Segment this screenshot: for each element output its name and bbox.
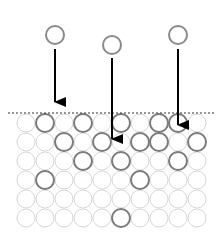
diagram-svg [0, 0, 217, 235]
grid-particle [131, 152, 149, 170]
diagram-canvas [0, 0, 217, 235]
highlighted-particle [112, 152, 130, 170]
grid-particle [112, 133, 130, 151]
highlighted-particle [74, 152, 92, 170]
grid-particle [150, 152, 168, 170]
grid-particle [169, 190, 187, 208]
highlighted-particle [169, 152, 187, 170]
grid-particle [150, 190, 168, 208]
grid-particle [93, 114, 111, 132]
grid-particle [36, 209, 54, 227]
grid-particle [74, 209, 92, 227]
highlighted-particle [55, 133, 73, 151]
grid-particle [17, 190, 35, 208]
incoming-particle [103, 36, 121, 54]
grid-particle [55, 152, 73, 170]
grid-particle [17, 209, 35, 227]
grid-particle [188, 152, 206, 170]
grid-particle [169, 133, 187, 151]
grid-particle [188, 190, 206, 208]
highlighted-particle [150, 133, 168, 151]
highlighted-particle [188, 133, 206, 151]
highlighted-particle [36, 171, 54, 189]
grid-particle [74, 133, 92, 151]
incoming-particle [46, 26, 64, 44]
grid-particle [112, 190, 130, 208]
grid-particle [150, 209, 168, 227]
grid-particle [169, 209, 187, 227]
grid-particle [17, 152, 35, 170]
grid-particle [74, 190, 92, 208]
grid-particle [188, 209, 206, 227]
highlighted-particle [93, 133, 111, 151]
grid-particle [150, 171, 168, 189]
grid-particle [93, 209, 111, 227]
highlighted-particle [131, 171, 149, 189]
falling-particles [46, 26, 187, 139]
grid-particle [112, 171, 130, 189]
highlighted-particle [74, 114, 92, 132]
grid-particle [55, 171, 73, 189]
grid-particle [55, 114, 73, 132]
grid-particle [55, 209, 73, 227]
grid-particle [188, 171, 206, 189]
grid-particle [55, 190, 73, 208]
highlighted-particle [36, 114, 54, 132]
grid-particle [17, 171, 35, 189]
grid-particle [93, 190, 111, 208]
grid-particle [17, 133, 35, 151]
grid-particle [36, 190, 54, 208]
incoming-particle [169, 26, 187, 44]
grid-particle [17, 114, 35, 132]
grid-particle [36, 133, 54, 151]
grid-particle [36, 152, 54, 170]
grid-particle [93, 171, 111, 189]
grid-particle [131, 114, 149, 132]
highlighted-particle [150, 114, 168, 132]
grid-particle [188, 114, 206, 132]
grid-particle [74, 171, 92, 189]
grid-particle [131, 190, 149, 208]
highlighted-particle [112, 209, 130, 227]
grid-particle [131, 209, 149, 227]
grid-particle [93, 152, 111, 170]
highlighted-particle [112, 114, 130, 132]
highlighted-particle [131, 133, 149, 151]
grid-particle [169, 171, 187, 189]
